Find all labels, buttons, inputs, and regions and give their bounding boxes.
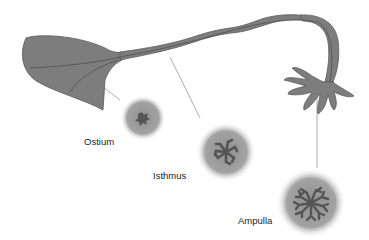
label-ostium: Ostium xyxy=(84,136,114,147)
fallopian-tube-diagram xyxy=(0,0,369,240)
fallopian-tube xyxy=(22,15,354,114)
label-ampulla: Ampulla xyxy=(238,215,272,226)
leader-line-isthmus xyxy=(170,57,200,118)
label-isthmus: Isthmus xyxy=(153,170,186,181)
cross-section-ostium xyxy=(120,95,166,141)
cross-section-ampulla xyxy=(276,168,346,238)
cross-section-isthmus xyxy=(196,122,256,182)
